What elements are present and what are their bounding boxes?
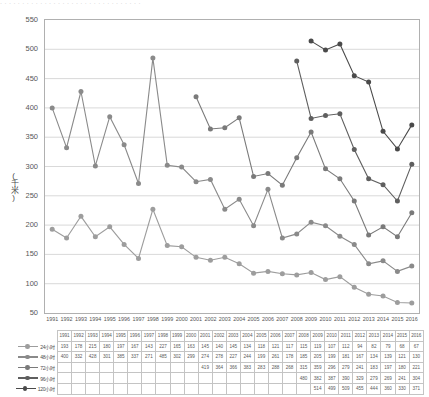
data-point: [381, 294, 386, 299]
data-point: [64, 145, 69, 150]
data-point: [237, 115, 242, 120]
data-point: [337, 234, 342, 239]
table-cell: 315: [297, 362, 311, 373]
table-row: 48小时400332428301385337271485302299274278…: [6, 352, 424, 363]
table-year-header-1995: 1995: [114, 331, 128, 342]
table-cell: [226, 373, 240, 384]
table-cell: 145: [226, 341, 240, 352]
table-cell: 283: [254, 362, 268, 373]
data-point: [208, 258, 213, 263]
table-cell: [254, 373, 268, 384]
table-cell: [283, 373, 297, 384]
x-tick-1994: 1994: [89, 316, 101, 322]
table-cell: 261: [268, 352, 282, 363]
data-point: [366, 292, 371, 297]
y-tick-450: 450: [25, 73, 38, 82]
table-cell: 180: [100, 341, 114, 352]
table-year-header-1993: 1993: [86, 331, 100, 342]
data-point: [294, 59, 299, 64]
table-cell: [212, 383, 226, 394]
table-cell: [72, 362, 86, 373]
table-cell: [86, 373, 100, 384]
data-point: [294, 272, 299, 277]
series-line: [311, 41, 412, 149]
series-line: [52, 58, 412, 271]
table-year-header-2007: 2007: [283, 331, 297, 342]
data-point: [222, 255, 227, 260]
table-cell: 383: [240, 362, 254, 373]
table-cell: [142, 383, 156, 394]
legend-label: 24小时: [40, 343, 55, 350]
table-cell: 121: [395, 352, 409, 363]
data-point: [179, 165, 184, 170]
table-row: 24小时193178215180197167143227165163145140…: [6, 341, 424, 352]
table-cell: 143: [142, 341, 156, 352]
table-cell: 183: [367, 362, 381, 373]
data-point: [366, 233, 371, 238]
table-cell: 337: [128, 352, 142, 363]
table-cell: 480: [297, 373, 311, 384]
table-row: 72小时419364366383283288268315359296279241…: [6, 362, 424, 373]
table-cell: 499: [325, 383, 339, 394]
plot-region: [44, 19, 420, 314]
data-point: [352, 242, 357, 247]
y-tick-200: 200: [25, 220, 38, 229]
data-point: [366, 176, 371, 181]
data-table-body: 1991199219931994199519961997199819992000…: [6, 331, 424, 395]
series-48小时: [50, 56, 415, 274]
legend-item-24小时[interactable]: 24小时: [6, 341, 58, 352]
table-cell: 241: [395, 373, 409, 384]
data-point: [208, 127, 213, 132]
x-tick-1993: 1993: [75, 316, 87, 322]
table-cell: 485: [156, 352, 170, 363]
data-point: [381, 182, 386, 187]
data-point: [78, 89, 83, 94]
table-cell: 79: [381, 341, 395, 352]
x-tick-2013: 2013: [363, 316, 375, 322]
x-tick-2008: 2008: [291, 316, 303, 322]
legend-dot-icon: [25, 344, 30, 349]
data-point: [337, 42, 342, 47]
table-cell: [86, 383, 100, 394]
table-cell: 366: [226, 362, 240, 373]
x-tick-2014: 2014: [377, 316, 389, 322]
data-point: [323, 47, 328, 52]
legend-item-48小时[interactable]: 48小时: [6, 352, 58, 363]
table-cell: [128, 373, 142, 384]
table-row: 96小时480382387390329279269241304: [6, 373, 424, 384]
legend-item-120小时[interactable]: 120小时: [6, 383, 58, 394]
table-year-header-2001: 2001: [198, 331, 212, 342]
x-tick-2011: 2011: [334, 316, 346, 322]
table-cell: 271: [142, 352, 156, 363]
y-axis-label: (千米): [4, 164, 18, 208]
table-cell: 134: [367, 352, 381, 363]
table-year-header-2014: 2014: [381, 331, 395, 342]
data-point: [294, 231, 299, 236]
x-tick-2012: 2012: [348, 316, 360, 322]
data-point: [323, 113, 328, 118]
table-year-header-1992: 1992: [72, 331, 86, 342]
data-point: [150, 56, 155, 61]
y-tick-400: 400: [25, 102, 38, 111]
table-cell: [114, 383, 128, 394]
legend-label: 72小时: [40, 364, 55, 371]
legend-item-72小时[interactable]: 72小时: [6, 362, 58, 373]
table-cell: [226, 383, 240, 394]
table-cell: [297, 383, 311, 394]
table-cell: 178: [72, 341, 86, 352]
table-cell: 304: [409, 373, 423, 384]
series-lines-svg: [45, 20, 419, 313]
table-cell: 68: [395, 341, 409, 352]
table-cell: 197: [114, 341, 128, 352]
x-tick-2010: 2010: [320, 316, 332, 322]
data-point: [78, 214, 83, 219]
table-cell: [184, 362, 198, 373]
table-cell: [170, 373, 184, 384]
y-tick-350: 350: [25, 132, 38, 141]
table-cell: 279: [367, 373, 381, 384]
table-cell: 455: [353, 383, 367, 394]
data-point: [409, 162, 414, 167]
table-cell: [268, 373, 282, 384]
table-cell: 274: [198, 352, 212, 363]
legend-item-96小时[interactable]: 96小时: [6, 373, 58, 384]
